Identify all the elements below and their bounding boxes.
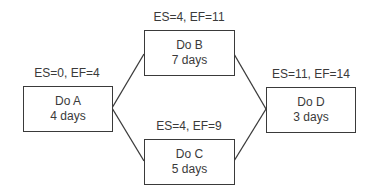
node-c: Do C 5 days [144,139,235,185]
node-b-times: ES=4, EF=11 [153,10,224,24]
node-b: Do B 7 days [144,30,235,76]
node-b-duration: 7 days [172,53,207,68]
node-c-times: ES=4, EF=9 [156,119,221,133]
node-b-name: Do B [176,38,203,53]
node-a-times: ES=0, EF=4 [34,66,99,80]
edge-a-c [112,108,144,161]
node-d: Do D 3 days [266,87,356,133]
node-d-duration: 3 days [293,110,328,125]
node-a: Do A 4 days [23,86,113,132]
node-d-times: ES=11, EF=14 [272,67,350,81]
edge-a-b [112,54,144,108]
node-a-name: Do A [55,94,81,109]
node-c-duration: 5 days [172,162,207,177]
node-a-duration: 4 days [50,109,85,124]
edge-c-d [234,109,266,161]
node-d-name: Do D [297,95,324,110]
node-c-name: Do C [176,147,203,162]
edge-b-d [234,54,266,109]
